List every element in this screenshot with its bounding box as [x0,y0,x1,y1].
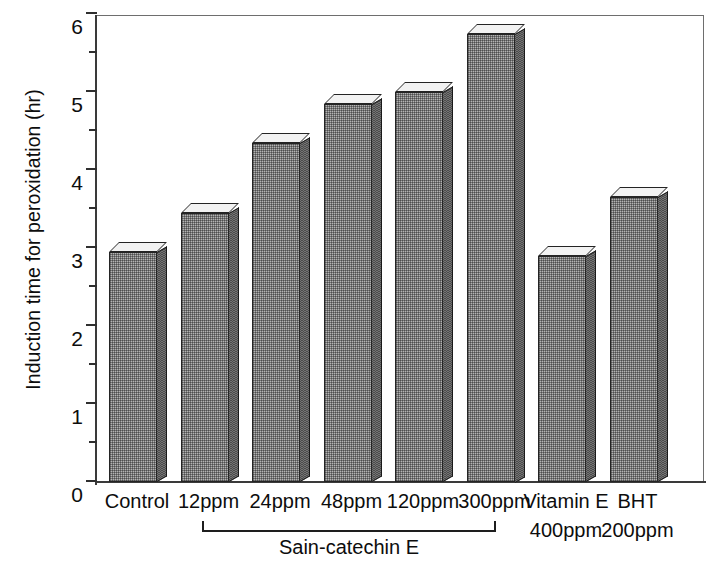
bar-front-face [109,252,157,482]
bar-side-face [372,98,382,482]
bar-bht [610,187,658,482]
bar-top-face [181,203,239,213]
bar-side-face [229,207,239,482]
y-tick-minor [89,51,97,53]
bar-front-face [610,197,658,482]
y-tick-minor [89,441,97,443]
bar-120ppm [395,82,443,482]
y-tick-major [86,402,97,404]
bar-top-face [395,82,453,92]
bar-front-face [324,104,372,482]
bar-side-face [515,28,525,482]
bar-12ppm [181,203,229,482]
y-tick-major [86,12,97,14]
bar-control [109,242,157,482]
x-category-sublabel: 200ppm [601,520,673,540]
bar-front-face [395,92,443,482]
bar-side-face [586,250,596,482]
plot-area: 0123456 [95,15,704,483]
bar-48ppm [324,94,372,482]
y-axis-title: Induction time for peroxidation (hr) [22,20,45,460]
bar-front-face [538,256,586,482]
x-category-label: 48ppm [321,491,382,511]
y-tick-minor [89,363,97,365]
group-bracket-label: Sain-catechin E [279,536,419,559]
bar-top-face [610,187,668,197]
x-category-label: 120ppm [387,491,459,511]
bar-side-face [658,192,668,482]
bar-top-face [467,24,525,34]
bar-vitamin-e [538,246,586,482]
x-category-label: 12ppm [178,491,239,511]
bar-top-face [109,242,167,252]
bar-front-face [467,34,515,483]
y-tick-major [86,168,97,170]
y-tick-major [86,324,97,326]
y-tick-major [86,246,97,248]
x-category-label: 300ppm [458,491,530,511]
bar-side-face [300,137,310,482]
bar-top-face [324,94,382,104]
bar-side-face [443,86,453,482]
x-category-label: Vitamin E [523,491,608,511]
y-tick-major [86,90,97,92]
x-category-label: BHT [618,491,658,511]
x-category-sublabel: 400ppm [530,520,602,540]
bar-front-face [181,213,229,482]
y-tick-major [86,480,97,482]
bar-top-face [252,133,310,143]
bar-side-face [157,246,167,482]
bar-300ppm [467,24,515,483]
group-bracket [202,521,496,532]
bar-top-face [538,246,596,256]
y-tick-minor [89,207,97,209]
bar-front-face [252,143,300,482]
y-tick-minor [89,285,97,287]
y-tick-minor [89,129,97,131]
bar-24ppm [252,133,300,482]
chart-figure: Induction time for peroxidation (hr) 012… [0,0,707,564]
x-category-label: Control [105,491,169,511]
y-axis-line [95,15,97,485]
x-category-label: 24ppm [249,491,310,511]
